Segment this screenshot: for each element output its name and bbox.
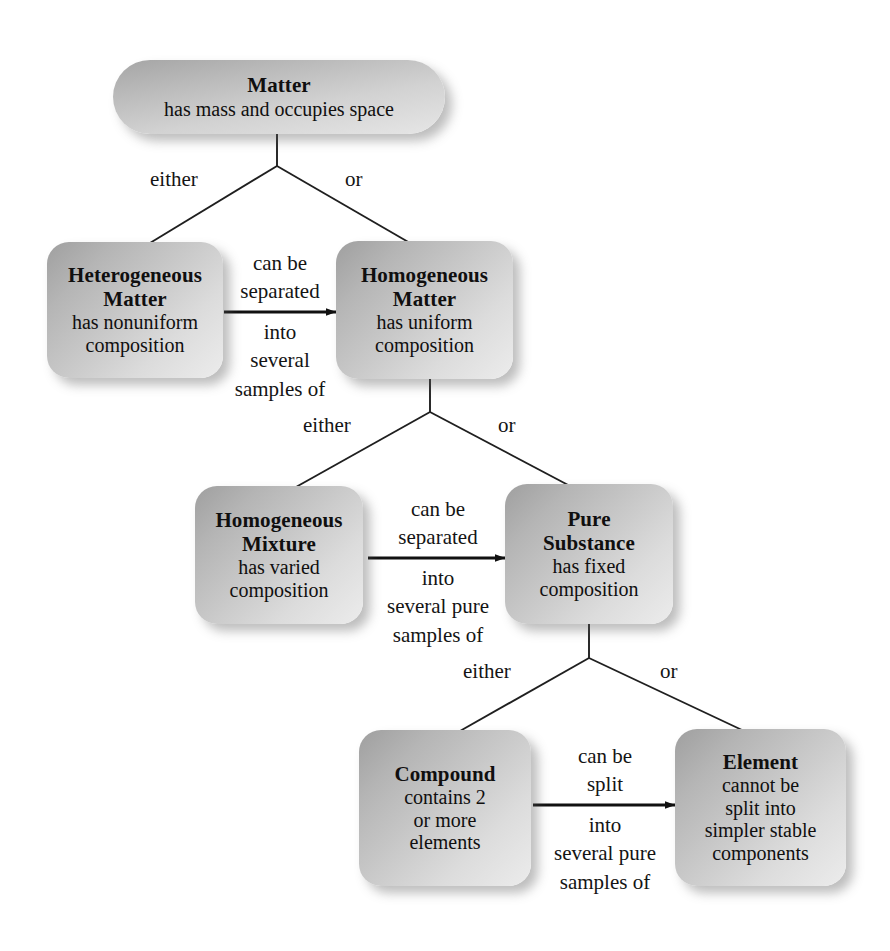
node-heterogeneous-matter-desc-1: has nonuniform — [72, 311, 198, 333]
node-heterogeneous-matter-title-1: Heterogeneous — [68, 264, 202, 288]
arrow-caption-compound-to-element-above-1: can be — [537, 742, 673, 770]
arrow-caption-het-to-hom-above-1: can be — [222, 249, 338, 277]
arrow-caption-mixture-to-pure-above-2: separated — [371, 523, 505, 551]
arrow-caption-compound-to-element-below-2: several pure — [537, 839, 673, 867]
node-homogeneous-mixture-desc-2: composition — [230, 579, 329, 601]
node-element-desc-1: cannot be — [722, 774, 799, 796]
arrow-caption-het-to-hom-gap — [222, 305, 338, 318]
node-element-title: Element — [723, 751, 798, 775]
branch-label-fork-1-right: or — [345, 167, 363, 192]
node-compound-title: Compound — [394, 763, 495, 787]
arrow-caption-compound-to-element-above-2: split — [537, 770, 673, 798]
node-pure-substance-desc-2: composition — [540, 578, 639, 600]
node-compound-desc-1: contains 2 — [404, 786, 486, 808]
arrow-caption-het-to-hom: can be separated into several samples of — [222, 249, 338, 403]
node-homogeneous-mixture-title-2: Mixture — [242, 533, 316, 557]
arrow-caption-het-to-hom-below-3: samples of — [222, 375, 338, 403]
branch-label-fork-3-right: or — [660, 659, 678, 684]
node-homogeneous-matter-desc-2: composition — [375, 334, 474, 356]
node-compound-desc-3: elements — [409, 831, 480, 853]
arrow-caption-compound-to-element-below-3: samples of — [537, 868, 673, 896]
node-pure-substance[interactable]: Pure Substance has fixed composition — [505, 484, 673, 624]
arrow-caption-compound-to-element-below-1: into — [537, 811, 673, 839]
node-homogeneous-mixture[interactable]: Homogeneous Mixture has varied compositi… — [195, 486, 363, 624]
arrow-caption-het-to-hom-below-2: several — [222, 346, 338, 374]
node-compound[interactable]: Compound contains 2 or more elements — [359, 730, 531, 886]
node-element-desc-2: split into — [725, 797, 796, 819]
arrow-caption-het-to-hom-below-1: into — [222, 318, 338, 346]
node-heterogeneous-matter-desc-2: composition — [86, 334, 185, 356]
node-compound-desc-2: or more — [414, 809, 477, 831]
node-homogeneous-matter[interactable]: Homogeneous Matter has uniform compositi… — [336, 241, 513, 379]
node-heterogeneous-matter[interactable]: Heterogeneous Matter has nonuniform comp… — [47, 242, 223, 378]
node-matter-desc-1: has mass and occupies space — [164, 98, 394, 120]
arrow-caption-compound-to-element-gap — [537, 798, 673, 811]
node-homogeneous-mixture-desc-1: has varied — [238, 556, 320, 578]
branch-label-fork-2-left: either — [303, 413, 351, 438]
node-pure-substance-desc-1: has fixed — [553, 555, 626, 577]
node-homogeneous-matter-title-2: Matter — [393, 288, 457, 312]
arrow-caption-mixture-to-pure-above-1: can be — [371, 495, 505, 523]
node-element-desc-3: simpler stable — [705, 819, 817, 841]
arrow-caption-mixture-to-pure-below-3: samples of — [371, 621, 505, 649]
node-pure-substance-title-1: Pure — [567, 508, 610, 532]
node-element[interactable]: Element cannot be split into simpler sta… — [675, 729, 846, 886]
arrow-caption-compound-to-element: can be split into several pure samples o… — [537, 742, 673, 896]
arrow-caption-het-to-hom-above-2: separated — [222, 277, 338, 305]
branch-label-fork-3-left: either — [463, 659, 511, 684]
matter-classification-diagram: Matter has mass and occupies space Heter… — [0, 0, 890, 951]
node-homogeneous-matter-desc-1: has uniform — [376, 311, 472, 333]
node-element-desc-4: components — [712, 842, 809, 864]
node-homogeneous-mixture-title-1: Homogeneous — [215, 509, 342, 533]
arrow-caption-mixture-to-pure: can be separated into several pure sampl… — [371, 495, 505, 649]
node-homogeneous-matter-title-1: Homogeneous — [361, 264, 488, 288]
node-matter[interactable]: Matter has mass and occupies space — [113, 60, 445, 134]
node-matter-title: Matter — [247, 74, 311, 98]
arrow-caption-mixture-to-pure-below-2: several pure — [371, 592, 505, 620]
branch-label-fork-1-left: either — [150, 167, 198, 192]
node-heterogeneous-matter-title-2: Matter — [103, 288, 167, 312]
arrow-caption-mixture-to-pure-below-1: into — [371, 564, 505, 592]
arrow-caption-mixture-to-pure-gap — [371, 551, 505, 564]
node-pure-substance-title-2: Substance — [543, 532, 635, 556]
branch-label-fork-2-right: or — [498, 413, 516, 438]
